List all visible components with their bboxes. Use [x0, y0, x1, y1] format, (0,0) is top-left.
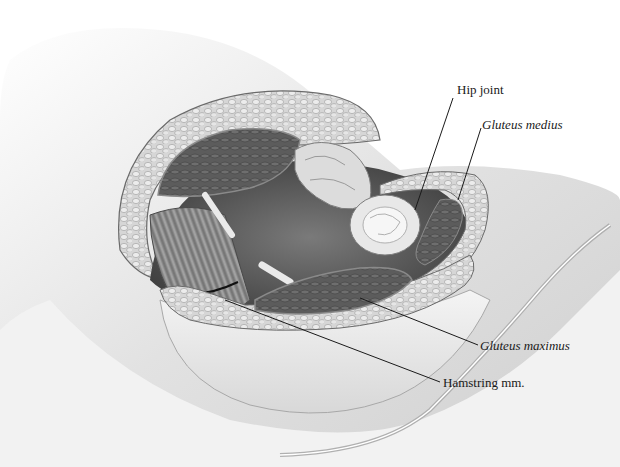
anatomical-illustration [0, 0, 620, 467]
label-hip-joint: Hip joint [457, 83, 504, 96]
label-gluteus-maximus: Gluteus maximus [480, 339, 570, 352]
label-gluteus-medius: Gluteus medius [482, 118, 563, 131]
label-hamstring-mm: Hamstring mm. [443, 376, 525, 389]
